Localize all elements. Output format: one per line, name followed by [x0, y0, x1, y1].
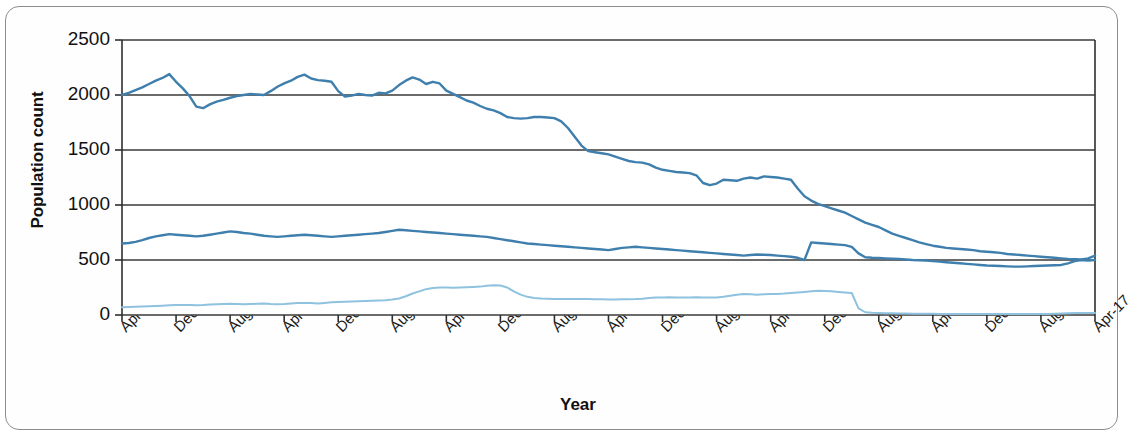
plot-area — [0, 0, 1131, 443]
plot-background — [122, 40, 1095, 315]
figure-container: Population count Year 050010001500200025… — [0, 0, 1131, 443]
line-chart: Population count Year 050010001500200025… — [0, 0, 1131, 443]
